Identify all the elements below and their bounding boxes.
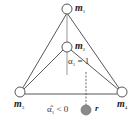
label-m4: m4 [117, 99, 127, 110]
node-r [81, 105, 91, 115]
tetrahedron-diagram: m1 m2 m3 m4 r α1 = 1 α̂1 < 0 [0, 0, 139, 129]
label-m1: m1 [75, 3, 85, 14]
label-m2: m2 [75, 41, 85, 52]
alpha1hat-annotation: α̂1 < 0 [47, 105, 68, 115]
label-m3: m3 [14, 99, 24, 110]
alpha1-annotation: α1 = 1 [68, 57, 89, 67]
node-m4 [117, 87, 127, 97]
node-m1 [62, 4, 72, 14]
label-r: r [95, 104, 99, 113]
node-m2 [62, 42, 72, 52]
node-m3 [15, 87, 25, 97]
